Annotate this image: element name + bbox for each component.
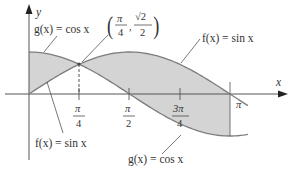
f-label-top: f(x) = sin x (202, 32, 254, 45)
tick-label-3pi4-num: 3π (172, 103, 184, 114)
shaded-region-left (29, 52, 79, 94)
y-axis-label: y (35, 6, 42, 19)
tick-label-pi2-num: π (125, 103, 131, 114)
point-label-x-num: π (117, 13, 123, 24)
x-axis-label: x (275, 76, 282, 88)
f-label-bottom: f(x) = sin x (35, 137, 87, 150)
point-label-y-den: 2 (140, 27, 145, 38)
point-label-close-paren: ) (153, 11, 159, 40)
tick-label-pi4-den: 4 (76, 118, 82, 129)
y-axis-arrow-icon (26, 4, 33, 14)
point-label-y-num: √2 (135, 11, 146, 22)
tick-label-3pi4-den: 4 (177, 118, 183, 129)
sin-cos-area-diagram: y x g(x) = cos x f(x) = sin x f(x) = sin… (0, 0, 289, 171)
intersection-point (77, 62, 80, 65)
point-label-open-paren: ( (107, 11, 113, 40)
leader-g-bottom (162, 135, 181, 154)
x-axis-arrow-icon (278, 91, 288, 98)
leader-f-top (181, 39, 200, 63)
point-label-x-den: 4 (118, 27, 124, 38)
tick-label-pi: π (236, 99, 242, 110)
tick-label-pi4-num: π (75, 103, 81, 114)
g-label-bottom: g(x) = cos x (128, 153, 184, 166)
leader-g-top (44, 36, 57, 52)
leader-f-bottom (47, 82, 63, 133)
point-label-comma: , (129, 21, 132, 32)
g-label-top: g(x) = cos x (34, 23, 90, 36)
tick-label-pi2-den: 2 (126, 118, 131, 129)
